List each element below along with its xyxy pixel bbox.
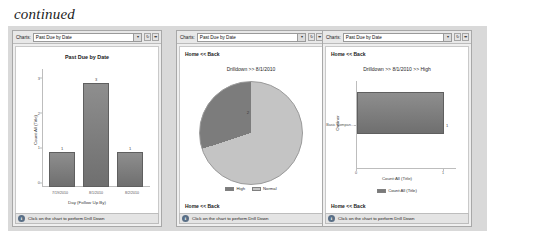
bar-value-label: 1	[129, 146, 131, 151]
legend-label-normal: Normal	[263, 186, 277, 191]
figure-page: continued Charts: Past Due by Date ▾ ↻ ⬌…	[0, 0, 541, 241]
pie-slices[interactable]	[199, 81, 303, 185]
x-axis-title: Day (Follow Up By)	[16, 200, 158, 205]
pie-container[interactable]: 2	[199, 81, 303, 185]
pie-chart-canvas[interactable]: Home << Back Drilldown >> 8/1/2010 2 Hig…	[179, 46, 323, 214]
x-tick-label: 7/19/2010	[45, 191, 75, 195]
x-tick-1: 1	[442, 171, 444, 175]
chevron-down-icon[interactable]: ▾	[443, 34, 451, 41]
chart-select-dropdown[interactable]: Past Due by Date ▾	[33, 33, 142, 42]
legend-item-high: High	[225, 186, 245, 191]
status-message: Click on the chart to perform Drill Down	[189, 216, 268, 221]
chart-select-value: Past Due by Date	[198, 35, 297, 40]
x-tick-labels: 7/19/2010 8/1/2010 8/2/2010	[42, 191, 150, 195]
plot-area: Basic Compan... 1 0 1	[356, 81, 456, 169]
home-back-link-top[interactable]: Home << Back	[331, 51, 365, 57]
status-message: Click on the chart to perform Drill Down	[335, 216, 414, 221]
drilldown-title: Drilldown >> 8/1/2010 >> High	[326, 66, 468, 72]
y-axis-title: Count:All (Title)	[33, 115, 38, 145]
drilldown-title: Drilldown >> 8/1/2010	[180, 66, 322, 72]
bar-value-label: 3	[95, 77, 97, 82]
hbar-legend: Count:All (Title)	[326, 188, 468, 193]
bar-chart-canvas[interactable]: Past Due by Date Count:All (Title) 0 1 2…	[15, 46, 159, 214]
bar-group[interactable]: 1	[49, 69, 75, 187]
chevron-down-icon[interactable]: ▾	[133, 34, 141, 41]
status-message: Click on the chart to perform Drill Down	[25, 216, 104, 221]
legend-item-count-all: Count:All (Title)	[377, 188, 417, 193]
chart-panel-past-due-by-date: Charts: Past Due by Date ▾ ↻ ⬌ Past Due …	[12, 30, 162, 227]
x-tick-label: 8/1/2010	[81, 191, 111, 195]
chart-select-value: Past Due by Date	[344, 35, 443, 40]
chart-panel-drilldown-date: Charts: Past Due by Date ▾ ↻ ⬌ Home << B…	[176, 30, 326, 227]
charts-label: Charts:	[15, 35, 33, 40]
expand-icon[interactable]: ⬌	[462, 33, 469, 41]
chart-panel-drilldown-high: Charts: Past Due by Date ▾ ↻ ⬌ Home << B…	[322, 30, 472, 227]
legend-swatch-count-all	[377, 189, 386, 193]
y-tick-1: 1	[38, 145, 40, 150]
legend-swatch-high	[225, 187, 234, 191]
pie-slice-label: 2	[247, 110, 249, 115]
plot-area: 0 1 2 3 1 3 1	[42, 69, 150, 187]
legend-label-high: High	[236, 186, 245, 191]
status-bar: i Click on the chart to perform Drill Do…	[325, 213, 469, 224]
panel-toolbar: Charts: Past Due by Date ▾ ↻ ⬌	[177, 31, 325, 44]
bar-value-label: 1	[61, 146, 63, 151]
bars-container: 1 3 1	[45, 69, 147, 187]
y-tick-0: 0	[38, 180, 40, 185]
charts-label: Charts:	[325, 35, 343, 40]
refresh-icon[interactable]: ↻	[454, 33, 461, 41]
bar-value-label: 1	[446, 123, 448, 128]
panel-toolbar: Charts: Past Due by Date ▾ ↻ ⬌	[323, 31, 471, 44]
bar-rect[interactable]	[83, 83, 109, 187]
hbar-chart-canvas[interactable]: Home << Back Drilldown >> 8/1/2010 >> Hi…	[325, 46, 469, 214]
status-bar: i Click on the chart to perform Drill Do…	[15, 213, 159, 224]
charts-label: Charts:	[179, 35, 197, 40]
bar-rect[interactable]	[49, 152, 75, 187]
legend-item-normal: Normal	[252, 186, 277, 191]
y-tick-2: 2	[38, 110, 40, 115]
home-back-link-bottom[interactable]: Home << Back	[185, 203, 219, 209]
chart-select-value: Past Due by Date	[34, 35, 133, 40]
y-tick-3: 3	[38, 75, 40, 80]
bar-rect[interactable]	[117, 152, 143, 187]
home-back-link-top[interactable]: Home << Back	[185, 51, 219, 57]
legend-swatch-normal	[252, 187, 261, 191]
expand-icon[interactable]: ⬌	[152, 33, 159, 41]
bar-group[interactable]: 3	[83, 69, 109, 187]
y-tick-label: Basic Compan...	[326, 123, 354, 127]
legend-label-count-all: Count:All (Title)	[388, 188, 417, 193]
bar-group[interactable]: 1	[117, 69, 143, 187]
y-axis-line	[42, 69, 43, 187]
status-bar: i Click on the chart to perform Drill Do…	[179, 213, 323, 224]
info-icon: i	[18, 215, 25, 222]
home-back-link-bottom[interactable]: Home << Back	[331, 203, 365, 209]
chart-select-dropdown[interactable]: Past Due by Date ▾	[197, 33, 306, 42]
x-axis-line	[356, 168, 456, 169]
panel-toolbar: Charts: Past Due by Date ▾ ↻ ⬌	[13, 31, 161, 44]
refresh-icon[interactable]: ↻	[144, 33, 151, 41]
x-axis-title: Count:All (Title)	[326, 176, 468, 181]
chevron-down-icon[interactable]: ▾	[297, 34, 305, 41]
chart-select-dropdown[interactable]: Past Due by Date ▾	[343, 33, 452, 42]
pie-legend: High Normal	[180, 186, 322, 191]
chart-title: Past Due by Date	[16, 54, 158, 60]
page-title: continued	[14, 6, 75, 23]
x-tick-0: 0	[355, 171, 357, 175]
info-icon: i	[182, 215, 189, 222]
info-icon: i	[328, 215, 335, 222]
bar-rect[interactable]	[357, 92, 444, 134]
x-tick-label: 8/2/2010	[117, 191, 147, 195]
refresh-icon[interactable]: ↻	[308, 33, 315, 41]
